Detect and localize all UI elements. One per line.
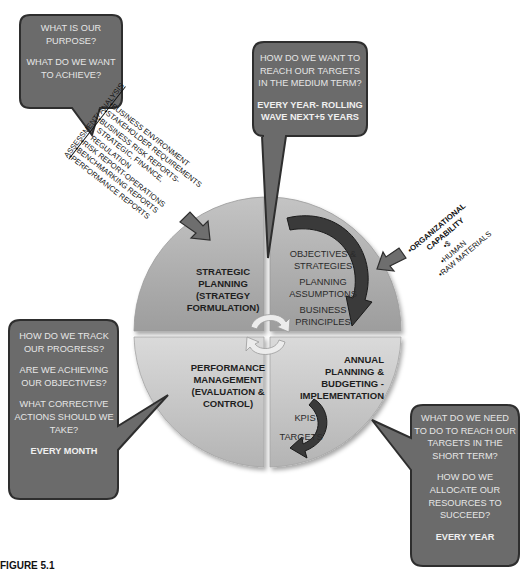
label-line: BUDGETING - (275, 378, 384, 390)
business-principles-item: BUSINESSPRINCIPLES (283, 304, 363, 328)
arrow-capability-input (377, 248, 406, 271)
callout-question: HOW DO WE ALLOCATE OUR RESOURCES TO SUCC… (414, 471, 516, 521)
callout-question: WHAT IS OUR PURPOSE? (22, 22, 120, 47)
kpis-label: KPIS (290, 412, 320, 424)
callout-short-term-text: WHAT DO WE NEED TO DO TO REACH OUR TARGE… (414, 412, 516, 552)
callout-question: HOW DO WE WANT TO REACH OUR TARGETS IN T… (255, 52, 365, 90)
planning-assumptions-item: PLANNINGASSUMPTIONS (283, 276, 363, 300)
targets-label: TARGETS (276, 431, 326, 443)
label-line: ANNUAL (275, 354, 384, 366)
callout-question: WHAT CORRECTIVE ACTIONS SHOULD WE TAKE? (12, 398, 116, 436)
label-line: IMPLEMENTATION (275, 390, 384, 402)
callout-question: WHAT DO WE WANT TO ACHIEVE? (22, 56, 120, 81)
strategy-cycle-diagram: WHAT IS OUR PURPOSE? WHAT DO WE WANT TO … (0, 0, 529, 577)
label-line: CONTROL) (183, 398, 273, 410)
label-line: PERFORMANCE (183, 362, 273, 374)
label-line: MANAGEMENT (183, 374, 273, 386)
callout-question: HOW DO WE TRACK OUR PROGRESS? (12, 330, 116, 355)
callout-track-progress-text: HOW DO WE TRACK OUR PROGRESS? ARE WE ACH… (12, 330, 116, 467)
label-performance-management: PERFORMANCE MANAGEMENT (EVALUATION & CON… (183, 362, 273, 410)
callout-frequency: EVERY YEAR (414, 531, 516, 544)
objectives-list: OBJECTIVES &STRATEGIES PLANNINGASSUMPTIO… (283, 248, 363, 332)
label-line: PLANNING (183, 278, 263, 290)
callout-question: ARE WE ACHIEVING OUR OBJECTIVES? (12, 364, 116, 389)
label-line: STRATEGIC (183, 266, 263, 278)
callout-purpose-text: WHAT IS OUR PURPOSE? WHAT DO WE WANT TO … (22, 22, 120, 90)
callout-question: WHAT DO WE NEED TO DO TO REACH OUR TARGE… (414, 412, 516, 462)
label-strategic-planning: STRATEGIC PLANNING (STRATEGY FORMULATION… (183, 266, 263, 314)
callout-frequency: EVERY YEAR- ROLLING WAVE NEXT+5 YEARS (255, 99, 365, 124)
label-line: (EVALUATION & (183, 386, 273, 398)
figure-caption: FIGURE 5.1 (0, 560, 54, 571)
label-line: PLANNING & (275, 366, 384, 378)
label-annual-planning: ANNUAL PLANNING & BUDGETING - IMPLEMENTA… (275, 354, 384, 402)
callout-frequency: EVERY MONTH (12, 445, 116, 458)
label-line: (STRATEGY (183, 290, 263, 302)
label-line: FORMULATION) (183, 302, 263, 314)
objectives-item: OBJECTIVES &STRATEGIES (283, 248, 363, 272)
callout-medium-term-text: HOW DO WE WANT TO REACH OUR TARGETS IN T… (255, 52, 365, 133)
